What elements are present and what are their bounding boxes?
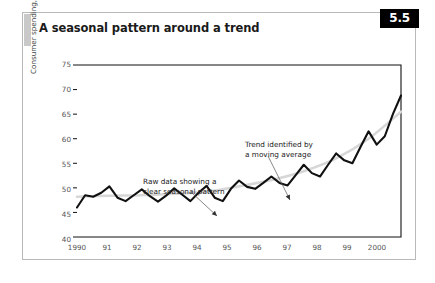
x-tick-97: 97 — [273, 243, 301, 252]
y-tick-70: 70 — [49, 85, 71, 94]
x-tick-96: 96 — [243, 243, 271, 252]
page-title: A seasonal pattern around a trend — [39, 21, 259, 35]
figure-card: A seasonal pattern around a trend 5.5 Co… — [22, 12, 416, 260]
trend-annotation-leader-line — [268, 156, 290, 200]
x-tick-91: 91 — [93, 243, 121, 252]
y-tick-65: 65 — [49, 110, 71, 119]
plot-area: Consumer spending, $m 75 70 65 60 55 50 … — [23, 47, 417, 260]
y-tick-75: 75 — [49, 60, 71, 69]
x-tick-98: 98 — [303, 243, 331, 252]
axis-frame — [77, 65, 401, 237]
y-tick-50: 50 — [49, 185, 71, 194]
raw-data-line — [77, 95, 401, 207]
raw-data-annotation-text: Raw data showing aclear seasonal pattern — [143, 177, 225, 196]
plot-frame — [77, 65, 401, 237]
x-tick-95: 95 — [213, 243, 241, 252]
y-axis-title: Consumer spending, $m — [29, 0, 38, 95]
x-tick-99: 99 — [333, 243, 361, 252]
y-tick-55: 55 — [49, 160, 71, 169]
y-tick-45: 45 — [49, 210, 71, 219]
x-tick-1990: 1990 — [63, 243, 91, 252]
x-tick-92: 92 — [123, 243, 151, 252]
figure-title-bar: A seasonal pattern around a trend 5.5 — [23, 13, 415, 47]
trend-line — [77, 112, 401, 197]
trend-line-group — [77, 112, 401, 197]
x-tick-94: 94 — [183, 243, 211, 252]
chart-canvas: Raw data showing aclear seasonal pattern… — [23, 47, 417, 260]
figure-number-badge: 5.5 — [380, 9, 419, 28]
raw-data-group — [77, 95, 401, 207]
x-tick-2000: 2000 — [363, 243, 391, 252]
y-tick-marks — [73, 65, 77, 237]
x-tick-93: 93 — [153, 243, 181, 252]
trend-annotation-text: Trend identified bya moving average — [244, 140, 314, 159]
y-tick-60: 60 — [49, 135, 71, 144]
annotations-group: Raw data showing aclear seasonal pattern… — [143, 140, 314, 216]
